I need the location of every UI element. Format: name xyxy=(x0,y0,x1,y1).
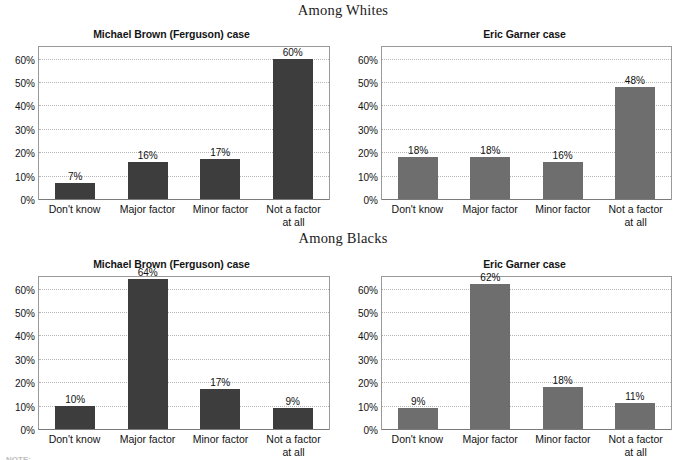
bar-value-label: 18% xyxy=(408,145,428,156)
bar-value-label: 18% xyxy=(553,375,573,386)
bar[interactable]: 17% xyxy=(200,159,240,199)
y-axis-tick-label: 40% xyxy=(344,101,378,112)
bar-value-label: 7% xyxy=(68,171,82,182)
x-axis-category-label: Don't know xyxy=(381,431,454,460)
y-axis-tick-label: 20% xyxy=(344,148,378,159)
y-axis-tick-label: 10% xyxy=(344,401,378,412)
x-axis-category-label: Minor factor xyxy=(184,431,257,460)
bar-slot: 18% xyxy=(454,47,526,199)
bar-slot: 48% xyxy=(599,47,671,199)
x-axis-category-label: Not a factor at all xyxy=(257,431,330,460)
bar[interactable]: 17% xyxy=(200,389,240,429)
x-axis-labels: Don't knowMajor factorMinor factorNot a … xyxy=(38,201,330,231)
y-axis-tick-label: 0% xyxy=(1,195,35,206)
y-axis-tick-label: 60% xyxy=(344,54,378,65)
bar[interactable]: 11% xyxy=(615,403,655,429)
x-axis-category-label: Major factor xyxy=(454,431,527,460)
footnote: NOTE: xyxy=(6,455,31,460)
bar-value-label: 10% xyxy=(65,394,85,405)
bar[interactable]: 16% xyxy=(543,162,583,199)
bar[interactable]: 7% xyxy=(55,183,95,199)
y-axis-tick-label: 50% xyxy=(1,308,35,319)
y-axis-tick-label: 10% xyxy=(344,171,378,182)
bar-value-label: 9% xyxy=(411,396,425,407)
plot-area: 60%50%40%30%20%10%0% 7%16%17%60% xyxy=(38,46,330,200)
x-axis-category-label: Major factor xyxy=(111,431,184,460)
gridline: 0% xyxy=(39,199,329,200)
bar-slot: 18% xyxy=(382,47,454,199)
y-axis-tick-label: 50% xyxy=(344,308,378,319)
bar-value-label: 16% xyxy=(138,150,158,161)
x-axis-category-label: Don't know xyxy=(381,201,454,231)
y-axis-tick-label: 40% xyxy=(1,101,35,112)
bar-series: 9%62%18%11% xyxy=(382,277,671,429)
y-axis-tick-label: 10% xyxy=(1,171,35,182)
y-axis-tick-label: 30% xyxy=(344,354,378,365)
bar-slot: 10% xyxy=(39,277,112,429)
bar[interactable]: 18% xyxy=(398,157,438,199)
bar-value-label: 9% xyxy=(286,396,300,407)
bar[interactable]: 9% xyxy=(273,408,313,429)
y-axis-tick-label: 20% xyxy=(344,378,378,389)
y-axis-tick-label: 0% xyxy=(344,425,378,436)
y-axis-tick-label: 50% xyxy=(344,78,378,89)
bar[interactable]: 10% xyxy=(55,406,95,429)
bar-slot: 9% xyxy=(257,277,330,429)
gridline: 0% xyxy=(39,429,329,430)
y-axis-tick-label: 30% xyxy=(1,124,35,135)
bar[interactable]: 18% xyxy=(543,387,583,429)
x-axis-category-label: Minor factor xyxy=(527,201,600,231)
chart-title: Michael Brown (Ferguson) case xyxy=(0,28,343,40)
plot-area: 60%50%40%30%20%10%0% 10%64%17%9% xyxy=(38,276,330,430)
y-axis-tick-label: 30% xyxy=(1,354,35,365)
bar-slot: 7% xyxy=(39,47,112,199)
bar[interactable]: 18% xyxy=(470,157,510,199)
x-axis-category-label: Major factor xyxy=(111,201,184,231)
y-axis-tick-label: 40% xyxy=(344,331,378,342)
x-axis-labels: Don't knowMajor factorMinor factorNot a … xyxy=(38,431,330,460)
chart-title: Eric Garner case xyxy=(343,28,686,40)
chart-panel-bottom-right: Eric Garner case 60%50%40%30%20%10%0% 9%… xyxy=(343,230,686,460)
y-axis-tick-label: 0% xyxy=(344,195,378,206)
x-axis-category-label: Don't know xyxy=(38,431,111,460)
chart-panel-top-right: Eric Garner case 60%50%40%30%20%10%0% 18… xyxy=(343,0,686,230)
bar-slot: 9% xyxy=(382,277,454,429)
bar-slot: 64% xyxy=(112,277,185,429)
bar-series: 10%64%17%9% xyxy=(39,277,329,429)
bar-slot: 11% xyxy=(599,277,671,429)
bar[interactable]: 60% xyxy=(273,59,313,199)
bar[interactable]: 64% xyxy=(128,279,168,429)
bar-value-label: 17% xyxy=(210,377,230,388)
bar[interactable]: 48% xyxy=(615,87,655,199)
y-axis-tick-label: 20% xyxy=(1,148,35,159)
bar-value-label: 64% xyxy=(138,267,158,278)
bar-slot: 60% xyxy=(257,47,330,199)
x-axis-category-label: Not a factor at all xyxy=(257,201,330,231)
y-axis-tick-label: 10% xyxy=(1,401,35,412)
x-axis-category-label: Not a factor at all xyxy=(599,431,672,460)
bar-value-label: 48% xyxy=(625,75,645,86)
bar-value-label: 16% xyxy=(553,150,573,161)
x-axis-category-label: Major factor xyxy=(454,201,527,231)
x-axis-category-label: Minor factor xyxy=(184,201,257,231)
x-axis-category-label: Minor factor xyxy=(527,431,600,460)
x-axis-labels: Don't knowMajor factorMinor factorNot a … xyxy=(381,431,672,460)
bar[interactable]: 16% xyxy=(128,162,168,199)
y-axis-tick-label: 60% xyxy=(1,284,35,295)
bar-value-label: 17% xyxy=(210,147,230,158)
bar[interactable]: 62% xyxy=(470,284,510,429)
plot-area: 60%50%40%30%20%10%0% 18%18%16%48% xyxy=(381,46,672,200)
y-axis-tick-label: 30% xyxy=(344,124,378,135)
y-axis-tick-label: 20% xyxy=(1,378,35,389)
chart-panel-bottom-left: Michael Brown (Ferguson) case 60%50%40%3… xyxy=(0,230,343,460)
x-axis-category-label: Don't know xyxy=(38,201,111,231)
chart-panel-top-left: Michael Brown (Ferguson) case 60%50%40%3… xyxy=(0,0,343,230)
bar-series: 7%16%17%60% xyxy=(39,47,329,199)
y-axis-tick-label: 0% xyxy=(1,425,35,436)
bar-value-label: 18% xyxy=(480,145,500,156)
bar[interactable]: 9% xyxy=(398,408,438,429)
y-axis-tick-label: 40% xyxy=(1,331,35,342)
y-axis-tick-label: 60% xyxy=(1,54,35,65)
bar-value-label: 60% xyxy=(283,47,303,58)
bar-slot: 62% xyxy=(454,277,526,429)
